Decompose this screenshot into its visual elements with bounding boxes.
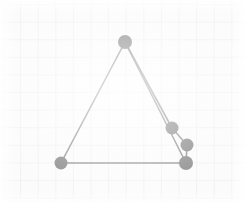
vertex-marker-bottom-left [55, 157, 68, 170]
grid-layer [0, 0, 246, 203]
vertex-marker-apex [118, 35, 132, 49]
grid-minor-lines-overlay [0, 0, 246, 203]
figure-canvas [0, 0, 246, 203]
vertex-marker-right-upper [166, 122, 179, 135]
vertex-marker-bottom-right [179, 156, 193, 170]
vertex-marker-right-middle [181, 139, 194, 152]
triangle-figure [0, 0, 246, 203]
